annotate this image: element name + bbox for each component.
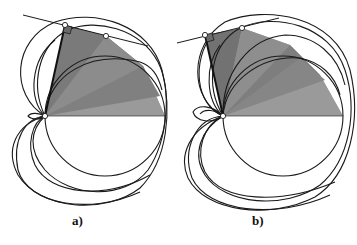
panel-a xyxy=(12,15,167,205)
point-b-pivot xyxy=(220,113,225,118)
point-b-top xyxy=(202,32,207,37)
point-b-tangent xyxy=(239,25,244,30)
point-a-tangent xyxy=(103,33,108,38)
panel-b xyxy=(177,14,355,210)
point-a-pivot xyxy=(42,113,47,118)
panel-a-label: a) xyxy=(72,214,83,227)
panel-b-label: b) xyxy=(252,214,264,227)
geometric-figure: a) b) xyxy=(0,0,357,245)
point-a-top xyxy=(62,22,67,27)
